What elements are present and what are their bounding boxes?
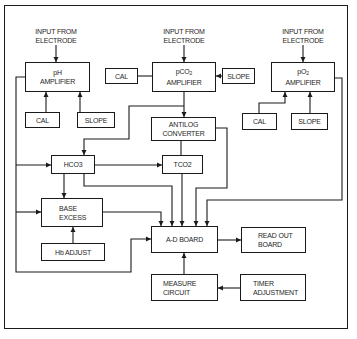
readout-line2: BOARD: [258, 240, 282, 249]
ph-cal-label: CAL: [36, 116, 49, 125]
input-line2: ELECTRODE: [273, 36, 333, 45]
readout-line1: READ OUT: [258, 231, 293, 240]
block-diagram: INPUT FROM ELECTRODE INPUT FROM ELECTROD…: [0, 0, 357, 339]
pco2-cal-label: CAL: [115, 72, 128, 81]
input-line1: INPUT FROM: [26, 27, 86, 36]
ph-slope-box: SLOPE: [77, 112, 115, 128]
base-excess-box: BASE EXCESS: [41, 198, 103, 227]
ph-slope-label: SLOPE: [85, 116, 107, 125]
po2-amp-line1: pO2: [297, 67, 309, 78]
po2-electrode-input-label: INPUT FROM ELECTRODE: [273, 27, 333, 45]
input-line1: INPUT FROM: [154, 27, 214, 36]
pco2-slope-label: SLOPE: [227, 72, 249, 81]
pco2-amp-line2: AMPLIFIER: [166, 78, 201, 87]
measure-line2: CIRCUIT: [163, 288, 190, 297]
readout-board-box: READ OUT BOARD: [241, 227, 306, 253]
pco2-slope-box: SLOPE: [222, 68, 255, 84]
ph-amp-line2: AMPLIFIER: [40, 77, 75, 86]
measure-line1: MEASURE: [163, 279, 196, 288]
ph-amp-line1: pH: [53, 68, 62, 77]
antilog-line2: CONVERTER: [162, 129, 204, 138]
hb-adjust-box: Hb ADJUST: [41, 243, 105, 261]
timer-line1: TIMER: [253, 279, 274, 288]
ad-board-box: A-D BOARD: [151, 226, 218, 253]
input-line2: ELECTRODE: [26, 36, 86, 45]
ad-board-label: A-D BOARD: [166, 235, 203, 244]
timer-adjustment-box: TIMER ADJUSTMENT: [240, 274, 306, 301]
base-excess-line1: BASE: [59, 204, 77, 213]
pco2-amplifier-box: pCO2 AMPLIFIER: [152, 62, 216, 92]
antilog-converter-box: ANTILOG CONVERTER: [151, 117, 216, 141]
ph-amplifier-box: pH AMPLIFIER: [25, 62, 90, 92]
ph-cal-box: CAL: [25, 112, 60, 128]
hco3-label: HCO3: [64, 160, 83, 169]
po2-slope-box: SLOPE: [291, 113, 328, 130]
hb-adjust-label: Hb ADJUST: [55, 248, 91, 257]
input-line2: ELECTRODE: [154, 36, 214, 45]
po2-cal-box: CAL: [242, 113, 277, 130]
tco2-label: TCO2: [174, 160, 192, 169]
hco3-box: HCO3: [51, 155, 95, 174]
po2-amp-line2: AMPLIFIER: [285, 78, 320, 87]
measure-circuit-box: MEASURE CIRCUIT: [151, 274, 218, 301]
pco2-cal-box: CAL: [105, 68, 138, 84]
antilog-line1: ANTILOG: [169, 120, 198, 129]
timer-line2: ADJUSTMENT: [253, 288, 298, 297]
ph-electrode-input-label: INPUT FROM ELECTRODE: [26, 27, 86, 45]
pco2-amp-line1: pCO2: [176, 67, 192, 78]
po2-amplifier-box: pO2 AMPLIFIER: [271, 62, 335, 92]
po2-cal-label: CAL: [253, 117, 266, 126]
base-excess-line2: EXCESS: [59, 213, 86, 222]
po2-slope-label: SLOPE: [298, 117, 320, 126]
tco2-box: TCO2: [162, 155, 203, 174]
input-line1: INPUT FROM: [273, 27, 333, 36]
pco2-electrode-input-label: INPUT FROM ELECTRODE: [154, 27, 214, 45]
